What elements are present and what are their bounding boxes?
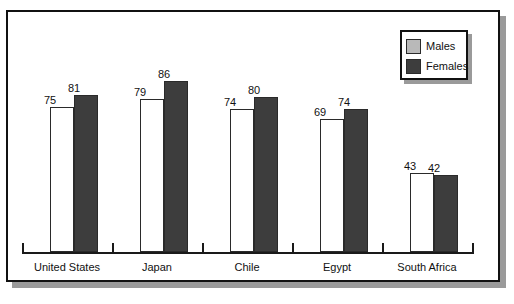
bar-value-females: 74 <box>329 96 359 108</box>
bar-females <box>254 97 278 252</box>
bar-males <box>50 107 74 252</box>
bar-females <box>344 109 368 252</box>
chart-legend: Males Females <box>400 30 468 80</box>
bar-value-females: 81 <box>59 82 89 94</box>
bar-value-females: 42 <box>419 162 449 174</box>
legend-label-males: Males <box>426 40 455 52</box>
axis-tick <box>382 243 384 254</box>
axis-tick <box>472 243 474 254</box>
axis-tick <box>292 243 294 254</box>
image-top-edge <box>0 0 514 9</box>
axis-tick <box>112 243 114 254</box>
bar-males <box>410 173 434 252</box>
bar-males <box>140 99 164 252</box>
category-label-south-africa: South Africa <box>372 261 482 273</box>
bar-value-males: 75 <box>35 94 65 106</box>
legend-label-females: Females <box>426 60 468 72</box>
legend-swatch-females-icon <box>406 59 421 74</box>
bar-females <box>164 81 188 252</box>
bar-value-females: 80 <box>239 84 269 96</box>
bar-males <box>230 109 254 252</box>
legend-item-females: Females <box>406 56 462 76</box>
axis-tick <box>22 243 24 254</box>
chart-panel: 75 81 United States 79 86 Japan 74 80 Ch… <box>6 10 500 282</box>
legend-item-males: Males <box>406 36 462 56</box>
bar-females <box>434 175 458 252</box>
bar-value-females: 86 <box>149 68 179 80</box>
bar-value-males: 74 <box>215 96 245 108</box>
legend-swatch-males-icon <box>406 39 421 54</box>
category-axis-line <box>22 252 474 254</box>
bar-males <box>320 119 344 252</box>
axis-tick <box>202 243 204 254</box>
bar-females <box>74 95 98 252</box>
bar-value-males: 79 <box>125 86 155 98</box>
